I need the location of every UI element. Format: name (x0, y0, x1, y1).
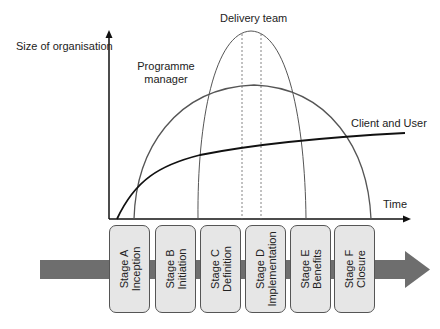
programme-manager-label: Programme manager (136, 60, 196, 86)
x-axis-arrowhead-icon (403, 216, 411, 223)
programme-manager-label-line2: manager (136, 73, 196, 86)
stage-box-b: Stage B Initiation (155, 225, 196, 313)
delivery-dashed-lines (242, 34, 261, 219)
stage-e-title: Stage E (299, 249, 311, 289)
stage-b-name: Initiation (176, 249, 188, 290)
stage-a-title: Stage A (118, 247, 130, 292)
stage-c-title: Stage C (209, 246, 221, 292)
stage-box-a-text: Stage A Inception (118, 247, 142, 292)
stage-box-e: Stage E Benefits (290, 225, 331, 313)
stage-box-d: Stage D Implementation (245, 225, 286, 313)
delivery-team-label: Delivery team (220, 12, 287, 25)
y-axis-arrowhead-icon (106, 30, 113, 38)
stage-d-name: Implementation (266, 231, 278, 306)
delivery-team-curve (198, 31, 306, 219)
stage-d-title: Stage D (254, 231, 266, 306)
programme-manager-curve (134, 85, 371, 219)
y-axis-label: Size of organisation (16, 40, 113, 53)
x-axis-label: Time (383, 198, 407, 211)
stage-box-f-text: Stage F Closure (343, 250, 367, 289)
programme-manager-label-line1: Programme (136, 60, 196, 73)
stage-c-name: Definition (221, 246, 233, 292)
stage-a-name: Inception (130, 247, 142, 292)
stage-box-a: Stage A Inception (109, 225, 150, 313)
stage-f-title: Stage F (343, 250, 355, 289)
stage-box-f: Stage F Closure (334, 225, 375, 313)
stage-b-title: Stage B (164, 249, 176, 290)
client-user-label: Client and User (351, 117, 427, 130)
stage-box-b-text: Stage B Initiation (164, 249, 188, 290)
stage-box-d-text: Stage D Implementation (254, 231, 278, 306)
stage-f-name: Closure (355, 250, 367, 289)
stage-e-name: Benefits (311, 249, 323, 289)
stage-box-c: Stage C Definition (200, 225, 241, 313)
stage-box-e-text: Stage E Benefits (299, 249, 323, 289)
stage-box-c-text: Stage C Definition (209, 246, 233, 292)
